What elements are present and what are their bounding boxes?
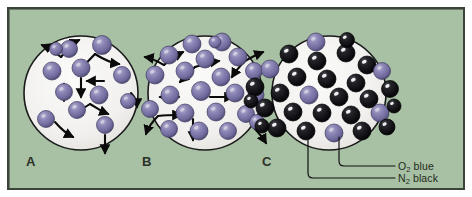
motion-arrow <box>146 116 158 134</box>
molecule-o2 <box>72 59 90 77</box>
molecule-o2 <box>207 103 225 121</box>
molecule-o2 <box>300 86 318 104</box>
molecule-o2 <box>212 68 230 86</box>
molecule-o2 <box>192 82 211 101</box>
molecule-o2 <box>61 41 78 58</box>
molecule-o2 <box>176 62 194 80</box>
molecule-o2 <box>374 63 391 80</box>
molecule-n2 <box>387 99 401 113</box>
legend-subscript: 2 <box>406 177 410 186</box>
figure-frame: A B C O2 blue N2 black <box>7 7 465 190</box>
molecule-n2 <box>379 119 395 135</box>
molecule-o2 <box>176 104 194 122</box>
panel-label-c: C <box>262 154 272 169</box>
molecule-o2 <box>50 43 63 56</box>
molecule-n2 <box>382 81 399 98</box>
molecule-o2 <box>69 102 86 119</box>
molecule-o2 <box>229 48 247 66</box>
molecule-o2 <box>196 50 214 68</box>
molecule-o2 <box>246 63 263 80</box>
molecule-o2 <box>97 117 114 134</box>
molecule-o2 <box>142 101 159 118</box>
molecule-o2 <box>226 84 244 102</box>
molecule-o2 <box>220 123 237 140</box>
panel-label-a: A <box>26 154 36 169</box>
molecule-n2 <box>244 94 258 108</box>
figure-root: A B C O2 blue N2 black <box>0 0 472 197</box>
diagram-canvas <box>9 9 463 188</box>
molecule-o2 <box>161 121 178 138</box>
molecule-o2 <box>90 86 108 104</box>
molecule-o2 <box>121 94 136 109</box>
molecule-o2 <box>183 35 201 53</box>
molecule-o2 <box>325 124 343 142</box>
molecule-o2 <box>190 122 208 140</box>
molecule-n2 <box>284 103 302 121</box>
molecule-o2 <box>209 36 221 48</box>
molecule-o2 <box>307 33 325 51</box>
molecule-n2 <box>297 122 315 140</box>
legend-label-n2: N2 black <box>398 172 438 184</box>
molecule-o2 <box>56 84 73 101</box>
molecule-n2 <box>347 74 365 92</box>
molecule-o2 <box>160 46 178 64</box>
molecule-n2 <box>353 122 371 140</box>
molecule-o2 <box>261 60 279 78</box>
molecule-o2 <box>38 111 55 128</box>
molecule-o2 <box>161 86 179 104</box>
molecule-o2 <box>43 62 61 80</box>
molecule-n2 <box>342 106 360 124</box>
molecule-n2 <box>340 33 355 48</box>
molecule-n2 <box>256 99 274 117</box>
molecule-n2 <box>268 119 286 137</box>
molecule-n2 <box>246 78 264 96</box>
molecule-n2 <box>308 52 326 70</box>
panel-label-b: B <box>142 154 152 169</box>
molecule-n2 <box>271 84 289 102</box>
molecule-n2 <box>313 104 331 122</box>
molecule-n2 <box>255 119 269 133</box>
legend-label-o2: O2 blue <box>398 160 434 172</box>
molecule-n2 <box>318 70 336 88</box>
molecule-o2 <box>93 36 112 55</box>
molecule-n2 <box>330 88 348 106</box>
molecule-o2 <box>114 67 131 84</box>
molecule-n2 <box>280 45 298 63</box>
molecule-o2 <box>146 66 164 84</box>
molecule-n2 <box>288 68 306 86</box>
